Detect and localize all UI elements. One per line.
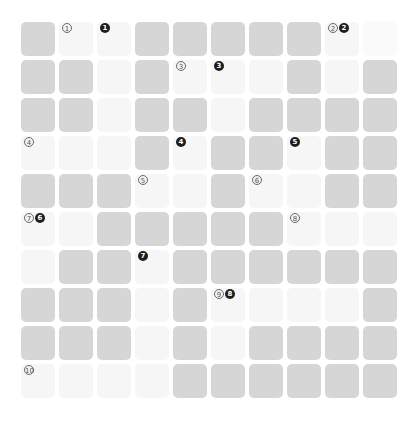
answer-cell[interactable]: 5 (135, 174, 169, 208)
answer-cell[interactable] (59, 364, 93, 398)
answer-cell[interactable] (325, 288, 359, 322)
down-number-marker: 3 (214, 61, 224, 71)
block-cell (21, 326, 55, 360)
block-cell (135, 98, 169, 132)
answer-cell[interactable] (97, 60, 131, 94)
answer-cell[interactable] (325, 60, 359, 94)
answer-cell[interactable] (135, 364, 169, 398)
block-cell (173, 98, 207, 132)
answer-cell[interactable]: 4 (173, 136, 207, 170)
crossword-grid: 1122334455676879810 (21, 22, 397, 398)
answer-cell[interactable]: 1 (97, 22, 131, 56)
block-cell (249, 136, 283, 170)
block-cell (173, 288, 207, 322)
answer-cell[interactable] (135, 326, 169, 360)
across-number-marker: 7 (24, 213, 34, 223)
across-number-marker: 6 (252, 175, 262, 185)
block-cell (325, 98, 359, 132)
answer-cell[interactable] (211, 98, 245, 132)
block-cell (325, 174, 359, 208)
block-cell (287, 60, 321, 94)
answer-cell[interactable]: 5 (287, 136, 321, 170)
clue-number: 1 (62, 23, 72, 33)
block-cell (363, 136, 397, 170)
block-cell (97, 212, 131, 246)
clue-number: 4 (24, 137, 34, 147)
block-cell (287, 250, 321, 284)
clue-number: 76 (24, 213, 45, 223)
block-cell (363, 60, 397, 94)
answer-cell[interactable] (211, 326, 245, 360)
block-cell (325, 364, 359, 398)
answer-cell[interactable]: 3 (173, 60, 207, 94)
answer-cell[interactable]: 3 (211, 60, 245, 94)
block-cell (363, 174, 397, 208)
block-cell (97, 174, 131, 208)
block-cell (135, 22, 169, 56)
block-cell (173, 364, 207, 398)
answer-cell[interactable]: 76 (21, 212, 55, 246)
across-number-marker: 4 (24, 137, 34, 147)
across-number-marker: 2 (328, 23, 338, 33)
answer-cell[interactable] (97, 98, 131, 132)
block-cell (211, 22, 245, 56)
across-number-marker: 5 (138, 175, 148, 185)
answer-cell[interactable] (97, 364, 131, 398)
answer-cell[interactable]: 10 (21, 364, 55, 398)
answer-cell[interactable] (249, 288, 283, 322)
clue-number: 3 (214, 61, 224, 71)
answer-cell[interactable]: 8 (287, 212, 321, 246)
clue-number: 5 (138, 175, 148, 185)
block-cell (325, 326, 359, 360)
answer-cell[interactable]: 6 (249, 174, 283, 208)
block-cell (21, 22, 55, 56)
block-cell (249, 326, 283, 360)
answer-cell[interactable] (59, 212, 93, 246)
block-cell (211, 364, 245, 398)
block-cell (135, 212, 169, 246)
answer-cell[interactable] (325, 212, 359, 246)
answer-cell[interactable]: 4 (21, 136, 55, 170)
answer-cell[interactable]: 98 (211, 288, 245, 322)
across-number-marker: 3 (176, 61, 186, 71)
clue-number: 6 (252, 175, 262, 185)
block-cell (173, 22, 207, 56)
clue-number: 8 (290, 213, 300, 223)
answer-cell[interactable]: 1 (59, 22, 93, 56)
clue-number: 98 (214, 289, 235, 299)
answer-cell[interactable] (173, 174, 207, 208)
clue-number: 7 (138, 251, 148, 261)
answer-cell[interactable]: 22 (325, 22, 359, 56)
answer-cell[interactable] (287, 174, 321, 208)
block-cell (363, 250, 397, 284)
answer-cell[interactable] (135, 288, 169, 322)
block-cell (363, 98, 397, 132)
block-cell (287, 364, 321, 398)
block-cell (325, 250, 359, 284)
block-cell (59, 250, 93, 284)
answer-cell[interactable] (249, 60, 283, 94)
block-cell (211, 174, 245, 208)
answer-cell[interactable] (363, 212, 397, 246)
block-cell (249, 250, 283, 284)
block-cell (249, 98, 283, 132)
block-cell (173, 250, 207, 284)
answer-cell[interactable] (59, 136, 93, 170)
clue-number: 22 (328, 23, 349, 33)
clue-number: 3 (176, 61, 186, 71)
block-cell (211, 136, 245, 170)
answer-cell[interactable] (287, 288, 321, 322)
clue-number: 5 (290, 137, 300, 147)
answer-cell[interactable] (97, 136, 131, 170)
answer-cell[interactable] (363, 22, 397, 56)
block-cell (363, 288, 397, 322)
block-cell (287, 22, 321, 56)
block-cell (97, 326, 131, 360)
block-cell (59, 326, 93, 360)
block-cell (59, 174, 93, 208)
answer-cell[interactable]: 7 (135, 250, 169, 284)
across-number-marker: 8 (290, 213, 300, 223)
answer-cell[interactable] (21, 250, 55, 284)
clue-number: 1 (100, 23, 110, 33)
block-cell (59, 288, 93, 322)
